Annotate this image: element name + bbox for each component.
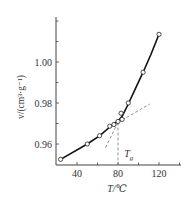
data-point-marker (116, 119, 120, 123)
y-tick-label: 0.98 (35, 98, 53, 109)
x-axis-title: T/℃ (107, 183, 127, 194)
data-point-marker (59, 157, 63, 161)
tg-annotation: Tg (124, 148, 134, 162)
tg-label: Tg (124, 148, 134, 162)
data-series (59, 32, 162, 161)
x-tick-label: 40 (72, 168, 82, 179)
data-point-marker (126, 101, 130, 105)
data-point-marker (141, 70, 145, 74)
data-point-marker (108, 124, 112, 128)
data-point-marker (85, 142, 89, 146)
axes (56, 17, 181, 165)
data-point-marker (119, 111, 123, 115)
data-point-marker (157, 32, 161, 36)
chart: 40801200.960.981.00 T/℃ v/(cm³·g⁻¹) Tg (0, 0, 193, 205)
tg-label-subscript: g (130, 154, 134, 162)
data-point-marker (120, 117, 124, 121)
data-point-marker (97, 134, 101, 138)
data-point-marker (112, 122, 116, 126)
y-tick-label: 1.00 (35, 57, 53, 68)
y-tick-label: 0.96 (35, 139, 53, 150)
x-tick-label: 80 (113, 168, 123, 179)
x-tick-label: 120 (152, 168, 167, 179)
y-axis-title: v/(cm³·g⁻¹) (16, 75, 27, 119)
data-line (61, 34, 159, 159)
